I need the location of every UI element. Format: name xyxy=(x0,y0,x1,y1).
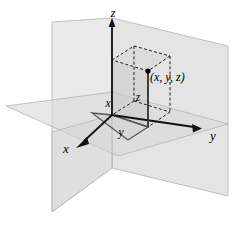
x-axis-label: x xyxy=(62,141,69,156)
point-coordinate-label: (x, y, z) xyxy=(150,70,185,84)
z-extent-label: z xyxy=(135,91,141,103)
z-axis-label: z xyxy=(109,5,115,20)
y-axis-label: y xyxy=(208,128,216,143)
y-extent-label: y xyxy=(117,126,124,139)
coordinate-figure: z y x (x, y, z) x z y xyxy=(0,0,234,230)
x-extent-label: x xyxy=(104,97,111,109)
yz-plane-lower xyxy=(52,115,112,212)
figure-canvas: z y x (x, y, z) x z y xyxy=(0,0,234,230)
